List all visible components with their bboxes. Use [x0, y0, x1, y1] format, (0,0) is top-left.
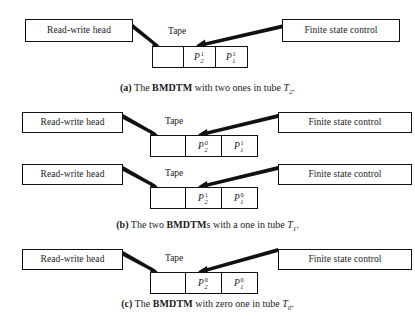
panel-caption: (a) The BMDTM with two ones in tube T2.: [0, 82, 415, 94]
figure-bmdtm-tube-states: Read-write head Finite state control Tap…: [0, 0, 415, 319]
read-write-head-label: Read-write head: [47, 26, 111, 36]
tape-symbol: P21: [194, 52, 205, 62]
caption-period: .: [291, 298, 294, 309]
tape-symbol: P10: [234, 278, 245, 288]
tape-cell: P11: [216, 47, 247, 67]
tape-symbol: P11: [234, 141, 245, 151]
tape-symbol-superscript: 1: [241, 139, 244, 146]
tape-symbol-subscript: 2: [205, 146, 208, 153]
finite-state-control-box: Finite state control: [282, 19, 400, 42]
tape-cell: [151, 188, 186, 208]
control-connector-arrow: [202, 248, 278, 273]
panel-caption: (b) The two BMDTMs with a one in tube T1…: [0, 219, 415, 231]
tape-box: P20 P11: [150, 135, 258, 157]
tape-symbol-subscript: 1: [232, 57, 235, 64]
tape-symbol-subscript: 2: [205, 198, 208, 205]
tape-symbol-superscript: 0: [205, 139, 208, 146]
tape-symbol-superscript: 0: [241, 191, 244, 198]
tape-symbol: P21: [198, 193, 209, 203]
caption-text-after: with two ones in tube: [192, 82, 283, 93]
machine-diagram: Read-write head Finite state control Tap…: [0, 160, 415, 212]
tape-box: P21 P10: [150, 187, 258, 209]
machine-diagram: Read-write head Finite state control Tap…: [0, 108, 415, 160]
tape-cell: P20: [186, 273, 221, 293]
tape-cell: P20: [186, 136, 221, 156]
tape-symbol-subscript: 1: [240, 198, 243, 205]
caption-period: .: [296, 219, 299, 230]
tape-symbol-superscript: 1: [201, 50, 204, 57]
tape-symbol: P20: [198, 278, 209, 288]
finite-state-control-label: Finite state control: [308, 118, 381, 128]
tape-symbol-subscript: 1: [240, 146, 243, 153]
read-write-head-label: Read-write head: [40, 255, 104, 265]
tape-symbol-superscript: 0: [241, 276, 244, 283]
panel-caption: (c) The BMDTM with zero one in tube T0.: [0, 298, 415, 310]
caption-text-before: The: [134, 82, 152, 93]
tape-cell: P10: [222, 273, 257, 293]
readwrite-connector-arrow: [133, 24, 158, 49]
read-write-head-box: Read-write head: [22, 112, 123, 133]
tape-cell: [151, 273, 186, 293]
tape-cell: P11: [222, 136, 257, 156]
caption-acronym: BMDTM: [166, 219, 206, 230]
tape-symbol-subscript: 2: [205, 283, 208, 290]
finite-state-control-box: Finite state control: [278, 112, 412, 133]
tape-symbol-subscript: 1: [240, 283, 243, 290]
finite-state-control-label: Finite state control: [308, 170, 381, 180]
tape-symbol-superscript: 0: [205, 276, 208, 283]
tape-cell: P10: [222, 188, 257, 208]
tape-symbol: P10: [234, 193, 245, 203]
tape-label: Tape: [168, 26, 186, 36]
tape-label: Tape: [165, 253, 183, 263]
tape-symbol: P20: [198, 141, 209, 151]
caption-text-after: with zero one in tube: [193, 298, 282, 309]
caption-text-after: s with a one in tube: [207, 219, 288, 230]
control-connector-arrow: [202, 166, 278, 188]
control-connector-arrow: [200, 25, 282, 48]
tape-cell: [153, 47, 184, 67]
tape-cell: P21: [186, 188, 221, 208]
readwrite-connector-arrow: [123, 114, 156, 137]
tape-symbol: P11: [226, 52, 237, 62]
caption-label: (c): [121, 298, 132, 309]
machine-diagram: Read-write head Finite state control Tap…: [0, 245, 415, 297]
tape-cell: [151, 136, 186, 156]
tape-box: P21 P11: [152, 46, 248, 68]
caption-acronym: BMDTM: [152, 82, 192, 93]
readwrite-connector-arrow: [123, 251, 156, 274]
read-write-head-box: Read-write head: [22, 164, 123, 185]
caption-period: .: [292, 82, 295, 93]
caption-acronym: BMDTM: [153, 298, 193, 309]
tape-cell: P21: [184, 47, 215, 67]
tape-symbol-subscript: 2: [201, 57, 204, 64]
finite-state-control-label: Finite state control: [308, 255, 381, 265]
read-write-head-box: Read-write head: [22, 249, 123, 270]
control-connector-arrow: [202, 114, 278, 136]
tape-label: Tape: [165, 116, 183, 126]
finite-state-control-label: Finite state control: [304, 26, 377, 36]
tape-label: Tape: [165, 168, 183, 178]
finite-state-control-box: Finite state control: [278, 164, 412, 185]
caption-label: (b): [116, 219, 128, 230]
tape-box: P20 P10: [150, 272, 258, 294]
read-write-head-label: Read-write head: [40, 118, 104, 128]
readwrite-connector-arrow: [123, 166, 156, 189]
machine-diagram: Read-write head Finite state control Tap…: [0, 0, 415, 78]
finite-state-control-box: Finite state control: [278, 249, 412, 270]
caption-text-before: The two: [131, 219, 167, 230]
caption-text-before: The: [135, 298, 153, 309]
tape-symbol-superscript: 1: [205, 191, 208, 198]
read-write-head-box: Read-write head: [25, 19, 133, 42]
caption-label: (a): [120, 82, 132, 93]
read-write-head-label: Read-write head: [40, 170, 104, 180]
tape-symbol-superscript: 1: [233, 50, 236, 57]
